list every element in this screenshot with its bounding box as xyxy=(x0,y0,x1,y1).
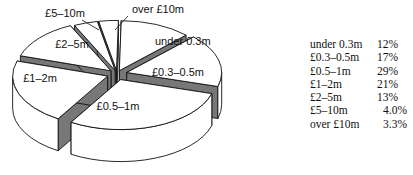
slice-label: £2–5m xyxy=(55,38,89,50)
legend-value: 21% xyxy=(377,78,407,91)
legend-label: £2–5m xyxy=(310,91,377,104)
legend-table: under 0.3m12% £0.3–0.5m17% £0.5–1m29% £1… xyxy=(310,38,413,131)
slice-label: £0.3–0.5m xyxy=(152,66,204,78)
slice-label: £5–10m xyxy=(45,7,85,19)
legend-row: £2–5m13% xyxy=(310,91,413,104)
pie-chart: under 0.3m£0.3–0.5m£0.5–1m£1–2m£2–5m£5–1… xyxy=(0,0,250,175)
legend-value: 29% xyxy=(377,65,407,78)
legend-row: £5–10m4.0% xyxy=(310,104,413,117)
legend-label: £0.5–1m xyxy=(310,65,377,78)
legend-value: 13% xyxy=(377,91,407,104)
legend-label: £0.3–0.5m xyxy=(310,51,377,64)
legend-row: over £10m3.3% xyxy=(310,118,413,131)
legend-label: £5–10m xyxy=(310,104,377,117)
legend-value: 3.3% xyxy=(377,118,413,131)
legend-row: £0.3–0.5m17% xyxy=(310,51,413,64)
slice-label: under 0.3m xyxy=(155,35,211,47)
legend-label: over £10m xyxy=(310,118,377,131)
slice-label: £0.5–1m xyxy=(97,100,140,112)
legend-value: 12% xyxy=(377,38,407,51)
legend-value: 17% xyxy=(377,51,407,64)
legend-row: under 0.3m12% xyxy=(310,38,413,51)
legend-value: 4.0% xyxy=(377,104,413,117)
slice-label: £1–2m xyxy=(23,72,57,84)
legend-row: £0.5–1m29% xyxy=(310,65,413,78)
legend-label: under 0.3m xyxy=(310,38,377,51)
legend-row: £1–2m21% xyxy=(310,78,413,91)
legend-label: £1–2m xyxy=(310,78,377,91)
slice-label: over £10m xyxy=(132,3,184,15)
